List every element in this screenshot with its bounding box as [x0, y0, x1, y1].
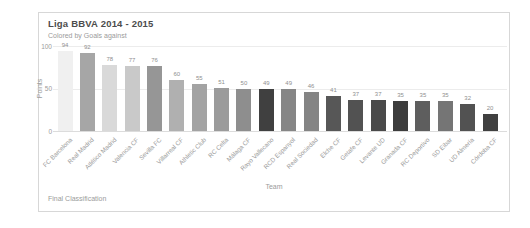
bar-value-real-madrid: 92 — [76, 44, 98, 51]
plot-area: Points 05010094FC Barcelona92Real Madrid… — [39, 13, 509, 211]
bar-real-sociedad[interactable] — [304, 92, 319, 131]
bar-levante-ud[interactable] — [371, 100, 386, 131]
bar-villarreal-cf[interactable] — [169, 80, 184, 131]
gridline-50 — [53, 89, 507, 90]
bar-granada-cf[interactable] — [393, 101, 408, 131]
bar-value-getafe-cf: 37 — [345, 91, 367, 98]
bar-real-madrid[interactable] — [80, 53, 95, 131]
bar-value-rayo-vallecano: 49 — [255, 80, 277, 87]
bar-value-fc-barcelona: 94 — [54, 42, 76, 49]
gridline-0 — [53, 131, 507, 132]
bar-elche-cf[interactable] — [326, 96, 341, 131]
y-tick-label-50: 50 — [39, 85, 52, 92]
y-tick-label-0: 0 — [39, 128, 52, 135]
bar-rc-celta[interactable] — [214, 88, 229, 131]
bar-ud-almeria[interactable] — [460, 104, 475, 131]
bar-rcd-espanyol[interactable] — [281, 89, 296, 131]
bar-cordoba-cf[interactable] — [483, 114, 498, 131]
bar-value-elche-cf: 41 — [322, 87, 344, 94]
bar-value-sd-eibar: 35 — [434, 92, 456, 99]
bar-value-malaga-cf: 50 — [233, 80, 255, 87]
bar-value-ud-almeria: 32 — [457, 95, 479, 102]
chart-caption: Final Classification — [48, 195, 106, 202]
y-tick-label-100: 100 — [39, 43, 52, 50]
gridline-100 — [53, 46, 507, 47]
bar-athletic-club[interactable] — [192, 84, 207, 131]
bar-sd-eibar[interactable] — [438, 101, 453, 131]
bar-value-villarreal-cf: 60 — [166, 71, 188, 78]
bar-value-rc-deportivo: 35 — [412, 92, 434, 99]
bar-value-cordoba-cf: 20 — [479, 105, 501, 112]
bar-value-athletic-club: 55 — [188, 75, 210, 82]
bar-getafe-cf[interactable] — [348, 100, 363, 131]
bar-value-levante-ud: 37 — [367, 91, 389, 98]
bar-rc-deportivo[interactable] — [415, 101, 430, 131]
bar-value-real-sociedad: 46 — [300, 83, 322, 90]
bar-rayo-vallecano[interactable] — [259, 89, 274, 131]
chart-card: Liga BBVA 2014 - 2015 Colored by Goals a… — [38, 12, 510, 212]
bar-value-rcd-espanyol: 49 — [278, 80, 300, 87]
bar-value-valencia-cf: 77 — [121, 57, 143, 64]
x-axis-title: Team — [39, 183, 509, 190]
page: { "card": { "title": "Liga BBVA 2014 - 2… — [0, 0, 530, 228]
bar-value-granada-cf: 35 — [390, 92, 412, 99]
bar-atletico-madrid[interactable] — [102, 65, 117, 131]
bar-malaga-cf[interactable] — [236, 89, 251, 132]
bar-value-sevilla-fc: 76 — [143, 57, 165, 64]
x-tick-label-fc-barcelona: FC Barcelona — [41, 136, 73, 168]
bar-value-rc-celta: 51 — [211, 79, 233, 86]
bar-sevilla-fc[interactable] — [147, 66, 162, 131]
bar-value-atletico-madrid: 78 — [99, 56, 121, 63]
bar-valencia-cf[interactable] — [125, 66, 140, 131]
bar-fc-barcelona[interactable] — [58, 51, 73, 131]
